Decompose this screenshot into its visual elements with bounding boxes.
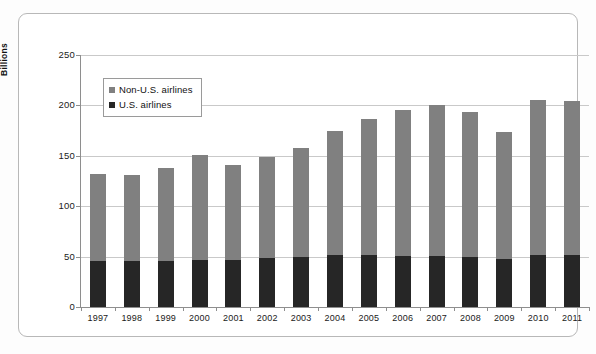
- legend-item[interactable]: U.S. airlines: [109, 98, 193, 113]
- bar-column[interactable]: [496, 55, 512, 307]
- legend-swatch-icon: [109, 87, 115, 93]
- x-tick-mark: [352, 307, 353, 311]
- bar-segment-non-us-airlines: [462, 112, 478, 256]
- bar-segment-us-airlines: [361, 255, 377, 307]
- bar-segment-us-airlines: [90, 261, 106, 307]
- bar-segment-non-us-airlines: [259, 157, 275, 258]
- bar-column[interactable]: [225, 55, 241, 307]
- chart-frame: Billions 050100150200250 199719981999200…: [18, 13, 578, 337]
- bar-segment-non-us-airlines: [327, 131, 343, 255]
- bar-segment-us-airlines: [429, 256, 445, 307]
- bar-column[interactable]: [361, 55, 377, 307]
- bar-segment-us-airlines: [564, 255, 580, 307]
- x-tick-mark: [284, 307, 285, 311]
- bar-segment-non-us-airlines: [293, 148, 309, 257]
- bar-column[interactable]: [259, 55, 275, 307]
- x-tick-mark: [149, 307, 150, 311]
- bar-segment-non-us-airlines: [496, 132, 512, 259]
- bar-segment-non-us-airlines: [90, 174, 106, 261]
- bar-segment-non-us-airlines: [564, 101, 580, 254]
- bar-segment-non-us-airlines: [530, 100, 546, 254]
- bar-segment-us-airlines: [124, 261, 140, 307]
- bar-segment-non-us-airlines: [361, 119, 377, 255]
- bar-segment-us-airlines: [158, 261, 174, 307]
- bar-segment-non-us-airlines: [192, 155, 208, 260]
- x-tick-mark: [454, 307, 455, 311]
- x-tick-mark: [183, 307, 184, 311]
- x-tick-mark: [318, 307, 319, 311]
- bar-segment-us-airlines: [293, 257, 309, 307]
- bar-segment-non-us-airlines: [395, 110, 411, 255]
- chart-legend: Non-U.S. airlinesU.S. airlines: [103, 78, 202, 117]
- bar-column[interactable]: [429, 55, 445, 307]
- bar-segment-non-us-airlines: [429, 105, 445, 255]
- legend-label: Non-U.S. airlines: [119, 83, 193, 98]
- bar-segment-us-airlines: [225, 260, 241, 307]
- bar-segment-non-us-airlines: [158, 168, 174, 261]
- bar-column[interactable]: [564, 55, 580, 307]
- x-tick-mark: [81, 307, 82, 311]
- x-tick-mark: [115, 307, 116, 311]
- bar-segment-us-airlines: [192, 260, 208, 307]
- legend-swatch-icon: [109, 102, 115, 108]
- bar-segment-us-airlines: [462, 257, 478, 307]
- x-tick-mark: [589, 307, 590, 311]
- x-tick-mark: [216, 307, 217, 311]
- y-tick-label-250: 250: [35, 49, 75, 60]
- x-tick-mark: [555, 307, 556, 311]
- scanned-page: Billions 050100150200250 199719981999200…: [0, 0, 596, 354]
- bar-segment-non-us-airlines: [225, 165, 241, 260]
- bar-column[interactable]: [462, 55, 478, 307]
- y-tick-label-0: 0: [35, 301, 75, 312]
- bar-segment-non-us-airlines: [124, 175, 140, 261]
- bar-segment-us-airlines: [327, 255, 343, 307]
- y-tick-label-100: 100: [35, 200, 75, 211]
- bar-segment-us-airlines: [259, 258, 275, 307]
- bar-segment-us-airlines: [530, 255, 546, 307]
- bar-column[interactable]: [530, 55, 546, 307]
- x-tick-mark: [487, 307, 488, 311]
- bar-segment-us-airlines: [395, 256, 411, 307]
- bar-column[interactable]: [395, 55, 411, 307]
- x-tick-mark: [386, 307, 387, 311]
- gridline-0: [81, 307, 589, 308]
- y-tick-label-150: 150: [35, 150, 75, 161]
- y-tick-label-200: 200: [35, 99, 75, 110]
- x-tick-mark: [420, 307, 421, 311]
- bar-column[interactable]: [293, 55, 309, 307]
- bar-segment-us-airlines: [496, 259, 512, 307]
- bar-column[interactable]: [327, 55, 343, 307]
- y-tick-label-50: 50: [35, 251, 75, 262]
- legend-item[interactable]: Non-U.S. airlines: [109, 83, 193, 98]
- legend-label: U.S. airlines: [119, 98, 172, 113]
- x-tick-mark: [250, 307, 251, 311]
- x-tick-label-2011: 2011: [550, 313, 594, 323]
- x-tick-mark: [521, 307, 522, 311]
- y-axis-title: Billions: [0, 43, 9, 76]
